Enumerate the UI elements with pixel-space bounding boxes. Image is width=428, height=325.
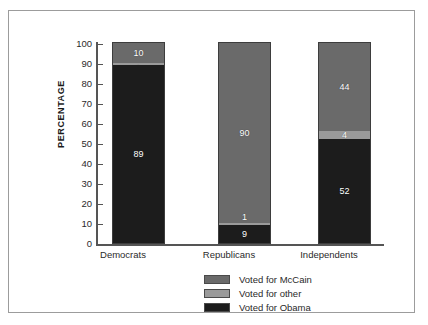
y-tick-label-20-wrap: 20 (64, 199, 92, 209)
bar-stack-republicans[interactable]: 90 1 9 (218, 42, 271, 244)
y-tick-label-10-wrap: 10 (64, 219, 92, 229)
chart-legend: Voted for McCain Voted for other Voted f… (204, 273, 374, 315)
bar-stack-democrats[interactable]: 10 1 89 (112, 42, 165, 244)
legend-item-obama[interactable]: Voted for Obama (204, 301, 374, 314)
y-tick-label-100: 100 (66, 39, 92, 49)
y-tick-label-60: 60 (66, 119, 92, 129)
y-tick-label-30: 30 (66, 179, 92, 189)
y-tick-label-100-wrap: 100 (64, 39, 92, 49)
legend-item-other[interactable]: Voted for other (204, 287, 374, 300)
segment-mccain-republicans[interactable]: 90 (219, 43, 270, 223)
segment-mccain-democrats[interactable]: 10 (113, 43, 164, 63)
y-tick-label-20: 20 (66, 199, 92, 209)
x-axis-line (96, 244, 384, 246)
y-tick-label-70-wrap: 70 (64, 99, 92, 109)
segment-value-obama-independents: 52 (339, 187, 349, 196)
segment-value-other-republicans: 1 (219, 213, 270, 222)
segment-obama-independents[interactable]: 52 (319, 139, 370, 243)
y-tick-mark-0 (98, 244, 103, 245)
y-tick-label-80-wrap: 80 (64, 79, 92, 89)
x-tick-label-independents: Independents (269, 250, 389, 260)
segment-value-mccain-independents: 44 (339, 83, 349, 92)
bar-group-independents[interactable]: 44 4 52 (318, 42, 369, 244)
y-tick-label-40-wrap: 40 (64, 159, 92, 169)
bar-group-democrats[interactable]: 10 1 89 (112, 42, 163, 244)
segment-value-obama-republicans: 9 (242, 230, 247, 239)
segment-obama-democrats[interactable]: 89 (113, 65, 164, 243)
figure-frame: PERCENTAGE 100 90 80 70 60 50 40 (8, 10, 415, 313)
y-tick-label-10: 10 (66, 219, 92, 229)
y-tick-label-0: 0 (66, 239, 92, 249)
y-tick-label-90: 90 (66, 59, 92, 69)
bar-stack-independents[interactable]: 44 4 52 (318, 42, 371, 244)
segment-value-obama-democrats: 89 (133, 150, 143, 159)
y-axis-title: PERCENTAGE (56, 59, 66, 169)
segment-value-mccain-republicans: 90 (239, 129, 249, 138)
y-tick-label-0-wrap: 0 (64, 239, 92, 249)
legend-swatch-obama-icon (204, 303, 230, 312)
y-tick-label-60-wrap: 60 (64, 119, 92, 129)
segment-other-independents[interactable]: 4 (319, 131, 370, 139)
y-tick-label-30-wrap: 30 (64, 179, 92, 189)
segment-mccain-independents[interactable]: 44 (319, 43, 370, 131)
x-tick-label-democrats: Democrats (63, 250, 183, 260)
legend-item-mccain[interactable]: Voted for McCain (204, 273, 374, 286)
y-tick-label-40: 40 (66, 159, 92, 169)
segment-value-mccain-democrats: 10 (133, 49, 143, 58)
y-tick-label-50: 50 (66, 139, 92, 149)
y-tick-label-80: 80 (66, 79, 92, 89)
legend-swatch-other-icon (204, 289, 230, 298)
legend-label-mccain: Voted for McCain (239, 275, 312, 285)
segment-obama-republicans[interactable]: 9 (219, 225, 270, 243)
chart-figure: PERCENTAGE 100 90 80 70 60 50 40 (0, 0, 428, 325)
legend-swatch-mccain-icon (204, 275, 230, 284)
y-tick-label-90-wrap: 90 (64, 59, 92, 69)
legend-label-other: Voted for other (239, 289, 301, 299)
y-tick-label-70: 70 (66, 99, 92, 109)
legend-label-obama: Voted for Obama (239, 303, 311, 313)
plot-area: 10 1 89 90 1 (96, 44, 384, 244)
bar-group-republicans[interactable]: 90 1 9 (218, 42, 269, 244)
y-tick-label-50-wrap: 50 (64, 139, 92, 149)
